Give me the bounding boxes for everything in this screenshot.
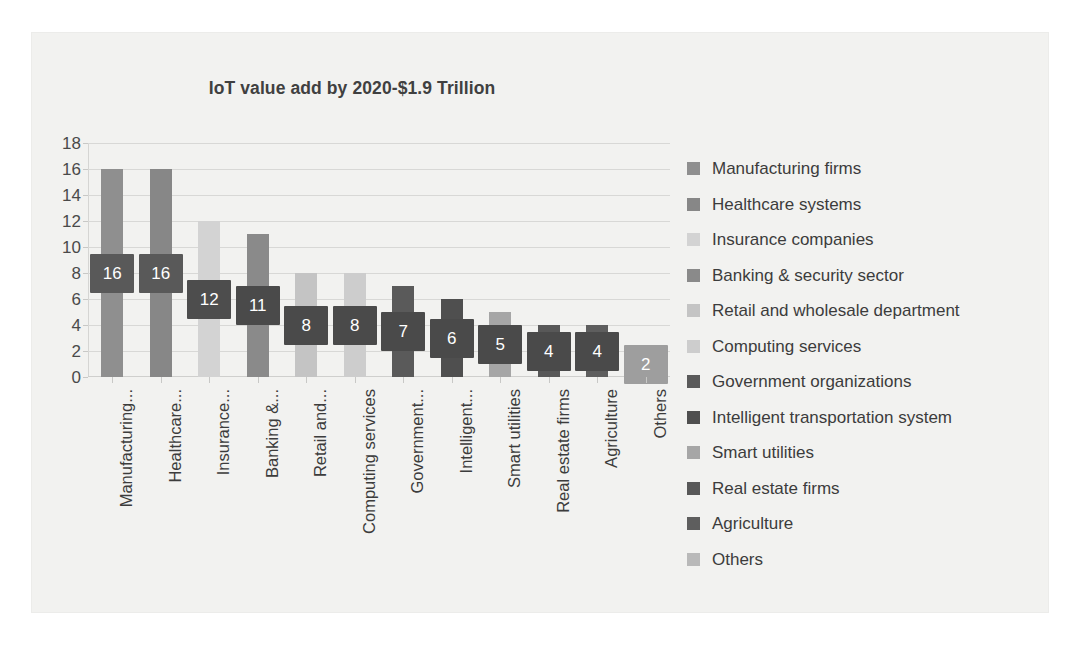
bar-value-label: 8 [284,306,328,345]
y-tick-label: 10 [62,239,81,256]
x-tick-mark [355,377,356,383]
legend-swatch-icon [687,446,700,459]
bar-slot[interactable]: 6Intelligent... [428,143,477,377]
legend-item[interactable]: Healthcare systems [687,187,1037,223]
x-tick-label: Smart utilities [500,387,517,486]
x-tick-mark [209,377,210,383]
x-tick-label: Banking &... [258,387,275,476]
bar-slot[interactable]: 8Retail and... [282,143,331,377]
legend-swatch-icon [687,269,700,282]
legend-label: Government organizations [712,373,911,390]
x-tick-label: Agriculture [597,387,614,466]
x-tick-label: Real estate firms [549,387,566,511]
legend-swatch-icon [687,482,700,495]
legend-swatch-icon [687,304,700,317]
y-tick-label: 0 [72,369,81,386]
x-tick-mark [452,377,453,383]
bar-slot[interactable]: 2Others [622,143,671,377]
plot-area: 024681012141618 16Manufacturing...16Heal… [88,143,670,377]
bar-value-label: 16 [90,254,134,293]
legend-item[interactable]: Insurance companies [687,222,1037,258]
legend-label: Agriculture [712,515,793,532]
x-tick-mark [646,377,647,383]
x-tick-label-text: Smart utilities [506,389,523,488]
legend-swatch-icon [687,517,700,530]
bar-slot[interactable]: 11Banking &... [234,143,283,377]
y-tick-label: 16 [62,161,81,178]
y-tick-label: 8 [72,265,81,282]
bar-slot[interactable]: 16Healthcare... [137,143,186,377]
bar-slot[interactable]: 16Manufacturing... [88,143,137,377]
legend-item[interactable]: Retail and wholesale department [687,293,1037,329]
x-tick-label-text: Intelligent... [458,389,475,473]
y-tick-label: 4 [72,317,81,334]
legend-label: Computing services [712,338,861,355]
x-tick-label-text: Manufacturing... [118,389,135,507]
legend-label: Banking & security sector [712,267,904,284]
bar-slot[interactable]: 7Government... [379,143,428,377]
x-tick-mark [549,377,550,383]
x-tick-label: Others [646,387,663,437]
bar-slot[interactable]: 8Computing services [331,143,380,377]
x-tick-label-text: Agriculture [603,389,620,468]
x-tick-label: Retail and... [306,387,323,475]
bar-value-label: 5 [478,325,522,364]
bar-slot[interactable]: 5Smart utilities [476,143,525,377]
bar-value-label: 12 [187,280,231,319]
legend-swatch-icon [687,411,700,424]
legend-item[interactable]: Agriculture [687,506,1037,542]
x-tick-label: Computing services [355,387,372,532]
legend-label: Smart utilities [712,444,814,461]
x-tick-label-text: Real estate firms [555,389,572,513]
x-tick-label-text: Banking &... [264,389,281,478]
x-tick-mark [597,377,598,383]
legend-item[interactable]: Smart utilities [687,435,1037,471]
x-tick-label-text: Retail and... [312,389,329,477]
chart-legend: Manufacturing firmsHealthcare systemsIns… [687,151,1037,577]
legend-label: Others [712,551,763,568]
y-tick-label: 14 [62,187,81,204]
x-tick-mark [258,377,259,383]
x-tick-label: Manufacturing... [112,387,129,505]
legend-label: Manufacturing firms [712,160,861,177]
x-tick-mark [403,377,404,383]
bar-value-label: 16 [139,254,183,293]
legend-item[interactable]: Computing services [687,329,1037,365]
legend-label: Intelligent transportation system [712,409,952,426]
bar-value-label: 6 [430,319,474,358]
x-tick-label: Healthcare... [161,387,178,481]
legend-item[interactable]: Real estate firms [687,471,1037,507]
x-tick-mark [161,377,162,383]
bar-slot[interactable]: 4Agriculture [573,143,622,377]
legend-label: Insurance companies [712,231,874,248]
bar-slot[interactable]: 4Real estate firms [525,143,574,377]
bar-value-label: 4 [575,332,619,371]
x-tick-label-text: Insurance... [215,389,232,475]
x-tick-mark [112,377,113,383]
x-tick-label-text: Others [652,389,669,439]
legend-swatch-icon [687,375,700,388]
legend-item[interactable]: Manufacturing firms [687,151,1037,187]
legend-label: Retail and wholesale department [712,302,960,319]
y-tick-label: 12 [62,213,81,230]
legend-swatch-icon [687,233,700,246]
x-tick-label: Intelligent... [452,387,469,471]
bar-value-label: 11 [236,286,280,325]
bar-slot[interactable]: 12Insurance... [185,143,234,377]
bar-value-label: 8 [333,306,377,345]
bar-value-label: 4 [527,332,571,371]
x-tick-label-text: Healthcare... [167,389,184,483]
legend-item[interactable]: Government organizations [687,364,1037,400]
y-tick-label: 2 [72,343,81,360]
legend-item[interactable]: Others [687,542,1037,578]
legend-item[interactable]: Banking & security sector [687,258,1037,294]
x-tick-label-text: Computing services [361,389,378,534]
legend-item[interactable]: Intelligent transportation system [687,400,1037,436]
legend-swatch-icon [687,553,700,566]
y-tick-label: 18 [62,135,81,152]
x-tick-label: Insurance... [209,387,226,473]
legend-swatch-icon [687,340,700,353]
legend-swatch-icon [687,162,700,175]
x-tick-label-text: Government... [409,389,426,494]
y-tick-mark [83,377,88,378]
